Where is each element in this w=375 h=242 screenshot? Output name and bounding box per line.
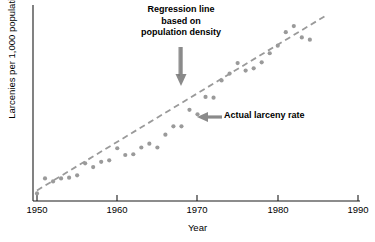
data-point (171, 124, 175, 128)
regression-annotation-line-1: Regression line (111, 4, 251, 16)
x-tick-label-1990: 1990 (338, 204, 375, 215)
data-point (268, 51, 272, 55)
data-point (75, 173, 79, 177)
data-point (51, 179, 55, 183)
data-point (195, 112, 199, 116)
x-axis-label: Year (0, 222, 375, 233)
data-point (300, 35, 304, 39)
data-point (67, 176, 71, 180)
data-point (107, 158, 111, 162)
regression-annotation-line-2: based on (111, 16, 251, 28)
data-point (228, 72, 232, 76)
data-point (244, 68, 248, 72)
data-point (203, 95, 207, 99)
x-axis-label-text: Year (188, 222, 207, 233)
data-point (163, 133, 167, 137)
data-point (187, 108, 191, 112)
x-tick-label-1960: 1960 (97, 204, 137, 215)
data-point (284, 30, 288, 34)
y-axis-label: Larcenies per 1,000 population (6, 0, 17, 149)
data-point (211, 96, 215, 100)
regression-annotation-arrow (176, 47, 187, 86)
regression-line-annotation: Regression line based on population dens… (111, 4, 251, 39)
figure-container: Larcenies per 1,000 population Year 1950… (0, 0, 375, 242)
data-point (147, 142, 151, 146)
data-point (83, 161, 87, 165)
data-point (155, 145, 159, 149)
data-point (99, 160, 103, 164)
x-tick-label-1970: 1970 (177, 204, 217, 215)
x-tick-label-1950: 1950 (17, 204, 57, 215)
data-point (59, 176, 63, 180)
data-point (236, 61, 240, 65)
data-point (252, 66, 256, 70)
x-axis-ticks (37, 195, 358, 201)
data-point (139, 145, 143, 149)
data-point (43, 176, 47, 180)
data-point (276, 44, 280, 48)
data-point (91, 165, 95, 169)
actual-rate-annotation-arrow (197, 112, 222, 122)
x-tick-label-1980: 1980 (258, 204, 298, 215)
data-point (123, 153, 127, 157)
data-point (308, 38, 312, 42)
data-point (131, 152, 135, 156)
data-point (219, 78, 223, 82)
regression-line (37, 16, 326, 191)
data-point (179, 124, 183, 128)
data-point (35, 191, 39, 195)
regression-annotation-line-3: population density (111, 27, 251, 39)
actual-rate-annotation: Actual larceny rate (224, 110, 354, 122)
data-point (115, 146, 119, 150)
data-point (292, 24, 296, 28)
data-point (260, 60, 264, 64)
